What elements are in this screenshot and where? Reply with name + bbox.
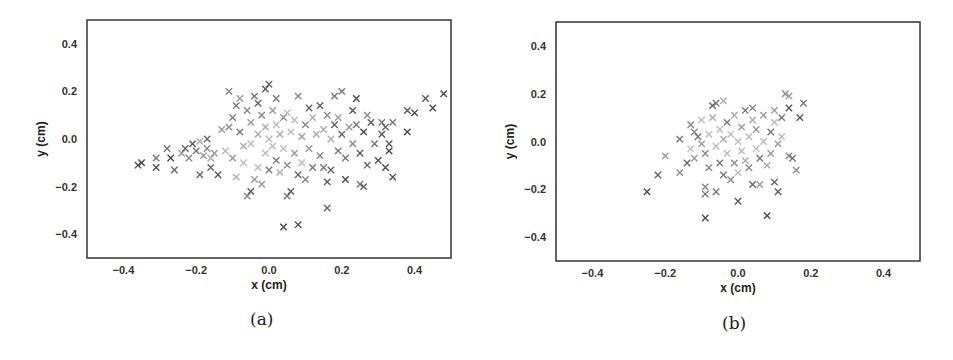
x-marker xyxy=(717,160,723,166)
x-marker xyxy=(441,91,447,97)
x-marker xyxy=(793,167,799,173)
x-marker xyxy=(280,224,286,230)
x-marker xyxy=(778,134,784,140)
x-marker xyxy=(197,172,203,178)
x-marker xyxy=(757,181,763,187)
x-marker xyxy=(320,126,326,132)
scatter-plot-b: −0.4−0.20.00.20.40.40.20.0−0.2−0.4x (cm)… xyxy=(476,0,953,360)
x-marker xyxy=(786,93,792,99)
x-marker xyxy=(273,157,279,163)
x-marker xyxy=(775,141,781,147)
x-marker xyxy=(277,131,283,137)
x-marker xyxy=(350,107,356,113)
x-marker xyxy=(280,145,286,151)
x-marker xyxy=(233,102,239,108)
x-marker xyxy=(320,164,326,170)
x-marker xyxy=(251,176,257,182)
x-marker xyxy=(735,169,741,175)
x-marker xyxy=(731,112,737,118)
x-axis-label: x (cm) xyxy=(251,278,286,292)
x-tick-label: 0.2 xyxy=(803,267,818,279)
scatter-plot-a: −0.4−0.20.00.20.40.40.20.0−0.2−0.4x (cm)… xyxy=(0,0,476,360)
x-marker xyxy=(335,114,341,120)
y-tick-label: −0.2 xyxy=(55,181,77,193)
y-axis-label: y (cm) xyxy=(34,121,48,156)
x-marker xyxy=(259,112,265,118)
x-marker xyxy=(259,181,265,187)
x-marker xyxy=(306,145,312,151)
x-marker xyxy=(229,155,235,161)
x-marker xyxy=(386,141,392,147)
x-marker xyxy=(284,110,290,116)
x-marker xyxy=(335,148,341,154)
x-marker xyxy=(269,107,275,113)
x-marker xyxy=(753,145,759,151)
x-marker xyxy=(713,188,719,194)
x-marker xyxy=(248,119,254,125)
x-marker xyxy=(295,172,301,178)
x-marker xyxy=(353,122,359,128)
x-marker xyxy=(360,129,366,135)
x-marker xyxy=(738,124,744,130)
x-marker xyxy=(288,129,294,135)
x-tick-label: 0.4 xyxy=(407,264,423,276)
x-marker xyxy=(208,155,214,161)
x-marker xyxy=(237,129,243,135)
x-marker xyxy=(713,143,719,149)
x-marker xyxy=(186,155,192,161)
x-marker xyxy=(255,164,261,170)
x-marker xyxy=(771,107,777,113)
x-marker xyxy=(309,164,315,170)
x-marker xyxy=(200,152,206,158)
x-marker xyxy=(662,153,668,159)
x-marker xyxy=(422,95,428,101)
x-marker xyxy=(218,126,224,132)
x-marker xyxy=(717,126,723,132)
x-marker xyxy=(364,162,370,168)
x-marker xyxy=(386,148,392,154)
x-marker xyxy=(691,155,697,161)
x-marker xyxy=(368,119,374,125)
x-marker xyxy=(280,114,286,120)
x-marker xyxy=(724,150,730,156)
x-marker xyxy=(313,131,319,137)
x-marker xyxy=(204,145,210,151)
x-marker xyxy=(288,188,294,194)
x-marker xyxy=(324,112,330,118)
x-marker xyxy=(284,193,290,199)
x-marker xyxy=(379,131,385,137)
x-marker xyxy=(295,221,301,227)
x-marker xyxy=(153,164,159,170)
x-marker xyxy=(350,141,356,147)
scatter-points xyxy=(644,91,807,222)
x-marker xyxy=(684,160,690,166)
x-marker xyxy=(720,98,726,104)
x-marker xyxy=(702,191,708,197)
x-marker xyxy=(411,110,417,116)
x-marker xyxy=(720,172,726,178)
x-marker xyxy=(687,145,693,151)
x-marker xyxy=(357,150,363,156)
x-marker xyxy=(262,86,268,92)
x-marker xyxy=(760,112,766,118)
x-marker xyxy=(244,193,250,199)
x-marker xyxy=(342,155,348,161)
x-marker xyxy=(379,119,385,125)
x-marker xyxy=(262,150,268,156)
x-marker xyxy=(375,157,381,163)
x-marker xyxy=(226,88,232,94)
x-marker xyxy=(204,136,210,142)
x-marker xyxy=(291,117,297,123)
x-marker xyxy=(226,124,232,130)
panel-a: −0.4−0.20.00.20.40.40.20.0−0.2−0.4x (cm)… xyxy=(0,0,476,360)
scatter-points xyxy=(135,81,447,230)
x-marker xyxy=(339,88,345,94)
y-tick-label: 0.4 xyxy=(531,40,547,52)
caption-b: (b) xyxy=(722,313,746,333)
x-tick-label: −0.2 xyxy=(654,267,676,279)
y-tick-label: 0.2 xyxy=(62,85,77,97)
x-tick-label: 0.0 xyxy=(730,267,745,279)
x-tick-label: −0.4 xyxy=(582,267,605,279)
x-marker xyxy=(251,93,257,99)
x-marker xyxy=(720,136,726,142)
